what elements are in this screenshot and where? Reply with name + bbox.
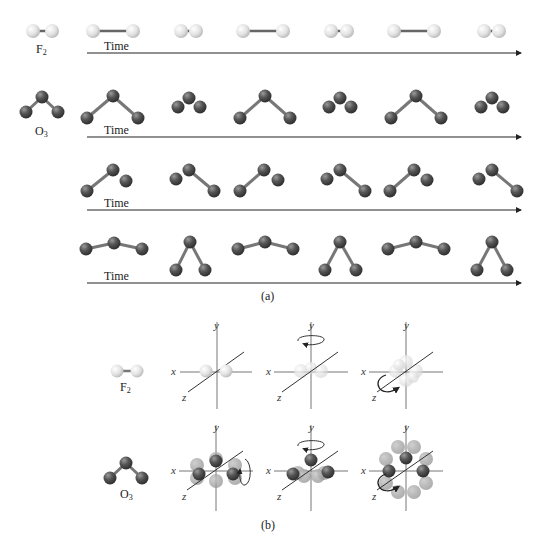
axis-label-y: y [404, 422, 409, 433]
axis-label-y: y [214, 320, 219, 331]
molecular-motion-figure [0, 0, 547, 557]
o3-axes-view-2 [274, 425, 348, 511]
molecule-subscript: 2 [43, 48, 47, 57]
o3-frame-compressed [475, 92, 510, 114]
panel-b [104, 322, 444, 511]
f2-reference-molecule-b [111, 365, 144, 378]
molecule-symbol: F [120, 380, 127, 394]
molecule-symbol: O [35, 124, 44, 138]
o3-reference-molecule-b [104, 457, 149, 485]
axis-label-z: z [372, 491, 376, 502]
molecule-label-o3: O3 [35, 125, 48, 139]
time-label-row-4: Time [104, 270, 129, 282]
panel-a [20, 24, 524, 283]
molecule-subscript: 3 [129, 493, 133, 502]
f2-frame-long [236, 24, 290, 38]
axis-label-z: z [372, 392, 376, 403]
axis-label-z: z [182, 491, 186, 502]
axis-label-z: z [182, 392, 186, 403]
f2-frame-short [324, 24, 354, 38]
axis-label-y: y [309, 320, 314, 331]
caption-a: (a) [261, 290, 274, 302]
o3-frame-asym [81, 164, 133, 198]
f2-frame-short [174, 24, 203, 38]
molecule-label-f2-b: F2 [120, 381, 131, 395]
axis-label-x: x [266, 366, 271, 377]
o3-frame-asym [384, 164, 434, 198]
f2-axes-view-1 [180, 322, 252, 409]
axis-label-x: x [171, 366, 176, 377]
caption-b: (b) [261, 519, 275, 531]
axis-label-z: z [277, 491, 281, 502]
axis-label-x: x [361, 366, 366, 377]
molecule-label-o3-b: O3 [120, 488, 133, 502]
o3-frame-flat [80, 237, 149, 256]
f2-axes-view-3 [369, 322, 443, 409]
molecule-label-f2: F2 [36, 43, 47, 57]
time-label-row-1: Time [104, 40, 129, 52]
o3-frame-narrow [471, 236, 514, 277]
o3-frame-bent-wide [81, 90, 145, 125]
axis-label-z: z [277, 392, 281, 403]
axis-label-x: x [361, 465, 366, 476]
time-label-row-2: Time [104, 124, 129, 136]
o3-axes-view-1 [179, 425, 253, 511]
f2-reference-molecule [26, 24, 59, 38]
time-label-row-3: Time [104, 197, 129, 209]
o3-frame-compressed [172, 92, 207, 114]
f2-frame-long [86, 24, 140, 38]
axis-label-y: y [214, 422, 219, 433]
f2-frame-short [477, 24, 506, 38]
f2-axes-view-2 [274, 322, 348, 409]
o3-frame-flat [232, 236, 300, 256]
o3-frame-asym [321, 164, 372, 198]
molecule-symbol: F [36, 42, 43, 56]
o3-frame-narrow [319, 236, 363, 277]
o3-frame-flat [382, 236, 451, 256]
axis-label-x: x [171, 465, 176, 476]
molecule-subscript: 2 [127, 386, 131, 395]
f2-frame-long [387, 24, 441, 38]
molecule-symbol: O [120, 487, 129, 501]
axis-label-x: x [266, 465, 271, 476]
o3-frame-bent-wide [234, 90, 297, 125]
o3-frame-bent-wide [385, 90, 448, 125]
axis-label-y: y [309, 422, 314, 433]
o3-axes-view-3 [369, 425, 443, 511]
o3-frame-asym [170, 164, 221, 198]
o3-frame-compressed [323, 92, 358, 114]
o3-frame-asym [473, 164, 524, 198]
o3-frame-narrow [170, 236, 212, 277]
o3-reference-molecule [20, 91, 65, 119]
o3-frame-asym [234, 164, 285, 198]
molecule-subscript: 3 [44, 130, 48, 139]
axis-label-y: y [404, 320, 409, 331]
